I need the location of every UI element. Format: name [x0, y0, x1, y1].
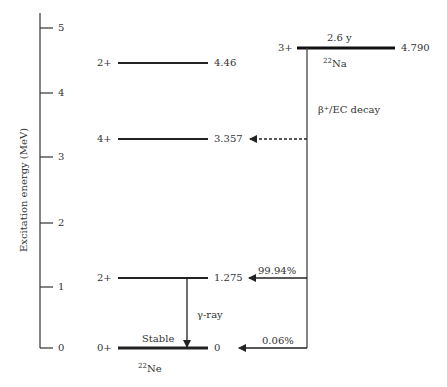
- stable-label: Stable: [142, 333, 174, 345]
- y-tick-4: 4: [58, 87, 64, 99]
- ne-mass-number: 22: [138, 362, 147, 370]
- na-symbol: Na: [332, 58, 347, 69]
- ne22-label: 22Ne: [138, 360, 162, 375]
- na-half-life: 2.6 y: [327, 32, 352, 44]
- energy-0: 0: [214, 342, 220, 354]
- energy-4.46: 4.46: [214, 57, 236, 69]
- branch-0.06: 0.06%: [262, 335, 294, 347]
- branch-99.94: 99.94%: [258, 265, 296, 277]
- spin-3.357: 4+: [97, 133, 112, 145]
- spin-0: 0+: [97, 342, 112, 354]
- gamma-ray-label: γ-ray: [197, 309, 223, 321]
- energy-3.357: 3.357: [214, 133, 243, 145]
- na22-label: 22Na: [323, 55, 347, 70]
- spin-1.275: 2+: [97, 272, 112, 284]
- y-tick-3: 3: [58, 151, 64, 163]
- energy-1.275: 1.275: [214, 272, 243, 284]
- ne22-levels: [118, 63, 208, 348]
- y-tick-2: 2: [58, 217, 64, 229]
- y-axis-label: Excitation energy (MeV): [18, 128, 29, 252]
- y-tick-1: 1: [58, 281, 64, 293]
- ne-symbol: Ne: [147, 363, 162, 374]
- spin-4.46: 2+: [97, 57, 112, 69]
- na-energy: 4.790: [401, 42, 430, 54]
- y-tick-0: 0: [58, 342, 64, 354]
- na-spin: 3+: [278, 42, 293, 54]
- y-axis: [40, 13, 53, 348]
- na-mass-number: 22: [323, 57, 332, 65]
- y-tick-5: 5: [58, 22, 64, 34]
- decay-mode-label: β⁺/EC decay: [318, 104, 380, 116]
